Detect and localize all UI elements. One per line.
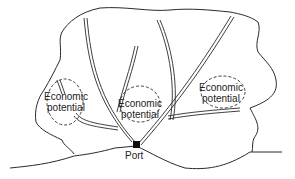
port-square-icon — [133, 141, 140, 148]
port-label: Port — [125, 150, 143, 161]
coastline — [10, 146, 282, 169]
economic-potential-label-center: Economic potential — [118, 98, 162, 120]
map-drawing — [0, 0, 295, 179]
routes — [57, 16, 240, 145]
land-outline — [35, 8, 276, 154]
economic-potential-label-right: Economic potential — [199, 82, 243, 104]
economic-potential-label-left: Economic potential — [44, 91, 88, 113]
diagram-canvas: Economic potential Economic potential Ec… — [0, 0, 295, 179]
